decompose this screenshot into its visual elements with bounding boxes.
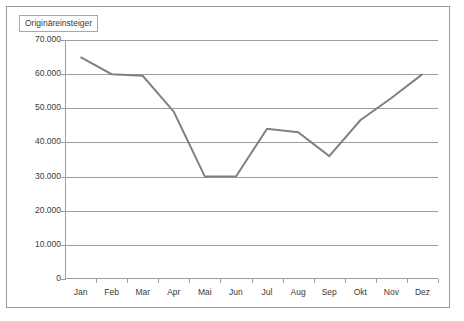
- x-tick-label: Okt: [354, 287, 367, 298]
- x-tick-mark: [283, 279, 284, 283]
- y-tick-label: 40.000: [35, 137, 61, 146]
- x-tick-mark: [96, 279, 97, 283]
- chart-frame: Originäreinsteiger 70.00060.00050.00040.…: [6, 6, 450, 308]
- legend-label: Originäreinsteiger: [25, 18, 92, 28]
- x-tick-label: Dez: [415, 287, 430, 298]
- y-tick-label: 70.000: [35, 35, 61, 44]
- legend-box: Originäreinsteiger: [19, 15, 98, 32]
- y-tick-label: 30.000: [35, 172, 61, 181]
- x-tick-label: Jul: [262, 287, 273, 298]
- x-tick-mark: [158, 279, 159, 283]
- x-axis-ticks: [65, 279, 439, 285]
- x-tick-mark: [345, 279, 346, 283]
- x-tick-label: Apr: [167, 287, 180, 298]
- x-tick-label: Sep: [322, 287, 337, 298]
- x-tick-label: Mai: [198, 287, 212, 298]
- x-axis-labels: JanFebMarAprMaiJunJulAugSepOktNovDez: [65, 287, 438, 301]
- x-tick-mark: [220, 279, 221, 283]
- x-tick-mark: [376, 279, 377, 283]
- y-tick-label: 10.000: [35, 240, 61, 249]
- x-tick-label: Jun: [229, 287, 243, 298]
- x-tick-label: Nov: [384, 287, 399, 298]
- y-tick-label: 20.000: [35, 206, 61, 215]
- x-tick-label: Jan: [74, 287, 88, 298]
- x-tick-mark: [127, 279, 128, 283]
- x-tick-label: Mar: [135, 287, 150, 298]
- y-axis-labels: 70.00060.00050.00040.00030.00020.00010.0…: [15, 40, 61, 280]
- x-tick-label: Feb: [104, 287, 119, 298]
- x-tick-mark: [189, 279, 190, 283]
- plot-area: [65, 40, 438, 279]
- y-tick-label: 50.000: [35, 103, 61, 112]
- x-tick-mark: [407, 279, 408, 283]
- series-line-originaereinsteiger: [65, 40, 438, 280]
- x-tick-mark: [438, 279, 439, 283]
- y-tick-label: 60.000: [35, 69, 61, 78]
- x-tick-mark: [252, 279, 253, 283]
- x-tick-mark: [314, 279, 315, 283]
- x-tick-label: Aug: [291, 287, 306, 298]
